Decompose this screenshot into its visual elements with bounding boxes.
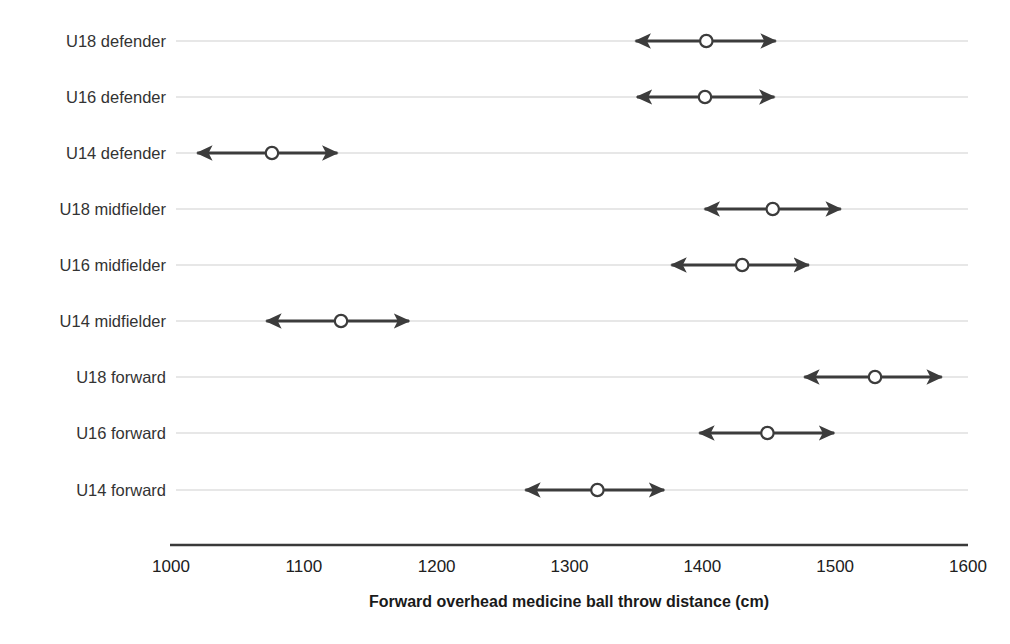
category-label: U18 midfielder: [60, 200, 167, 218]
mean-marker: [869, 371, 881, 383]
mean-marker: [700, 35, 712, 47]
range-marker: [636, 35, 776, 47]
x-tick-label: 1600: [949, 557, 987, 576]
category-label: U14 midfielder: [60, 312, 167, 330]
category-label-group: U18 defenderU16 defenderU14 defenderU18 …: [60, 32, 167, 499]
range-marker: [671, 259, 808, 271]
x-tick-label: 1000: [152, 557, 190, 576]
mean-marker: [767, 203, 779, 215]
x-tick-label: 1200: [418, 557, 456, 576]
x-tick-label: 1500: [816, 557, 854, 576]
range-marker: [525, 484, 664, 496]
x-tick-label: 1400: [683, 557, 721, 576]
range-marker: [699, 427, 834, 439]
x-tick-label-group: 1000110012001300140015001600: [152, 557, 987, 576]
mean-marker: [761, 427, 773, 439]
x-axis-title: Forward overhead medicine ball throw dis…: [369, 593, 769, 610]
category-label: U18 forward: [76, 368, 166, 386]
x-tick-label: 1300: [551, 557, 589, 576]
medicine-ball-throw-range-chart: U18 defenderU16 defenderU14 defenderU18 …: [0, 0, 1010, 644]
range-marker: [266, 315, 409, 327]
category-label: U14 defender: [66, 144, 166, 162]
mean-marker: [335, 315, 347, 327]
mean-marker: [266, 147, 278, 159]
range-marker: [197, 147, 337, 159]
category-label: U16 forward: [76, 424, 166, 442]
mean-marker: [736, 259, 748, 271]
category-label: U16 defender: [66, 88, 166, 106]
range-marker: [804, 371, 941, 383]
mean-marker: [699, 91, 711, 103]
category-label: U16 midfielder: [60, 256, 167, 274]
gridline-group: [176, 41, 968, 490]
range-marker: [705, 203, 841, 215]
category-label: U14 forward: [76, 481, 166, 499]
mean-marker: [591, 484, 603, 496]
range-marker-group: [197, 35, 941, 496]
x-tick-label: 1100: [286, 557, 323, 576]
range-marker: [637, 91, 774, 103]
category-label: U18 defender: [66, 32, 166, 50]
chart-container: U18 defenderU16 defenderU14 defenderU18 …: [0, 0, 1010, 644]
